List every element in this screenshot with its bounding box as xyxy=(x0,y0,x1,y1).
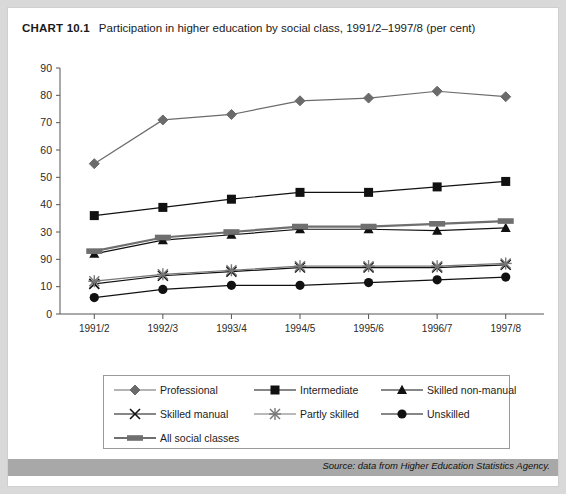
series-line xyxy=(94,181,505,215)
star-marker xyxy=(431,260,443,272)
source-note: Source: data from Higher Education Stati… xyxy=(322,460,550,471)
y-axis-tick-label: 90 xyxy=(40,253,52,265)
circle-marker xyxy=(397,409,406,418)
x-axis-tick-label: 1997/8 xyxy=(490,323,521,334)
diamond-marker xyxy=(158,115,168,125)
y-axis-tick-label: 0 xyxy=(46,308,52,320)
circle-marker xyxy=(501,273,510,282)
legend-item-label: All social classes xyxy=(160,432,239,444)
diamond-marker xyxy=(295,96,305,106)
x-axis-tick-label: 1991/2 xyxy=(79,323,110,334)
circle-marker xyxy=(379,405,425,423)
bar-marker xyxy=(127,435,143,441)
y-axis-tick-label: 30 xyxy=(40,226,52,238)
legend-item-label: Skilled manual xyxy=(160,408,228,420)
diamond-marker xyxy=(226,109,236,119)
source-band: Source: data from Higher Education Stati… xyxy=(8,459,558,476)
chart-card: CHART 10.1Participation in higher educat… xyxy=(8,8,558,486)
legend-item-label: Professional xyxy=(160,384,218,396)
star-marker xyxy=(500,257,512,269)
y-axis-tick-label: 60 xyxy=(40,144,52,156)
bar-marker xyxy=(361,224,377,230)
triangle-marker xyxy=(501,223,511,232)
bar-marker xyxy=(112,429,158,447)
chart-title-row: CHART 10.1Participation in higher educat… xyxy=(22,22,548,34)
legend-item[interactable]: Intermediate xyxy=(252,378,358,402)
x-axis-tick-label: 1995/6 xyxy=(353,323,384,334)
circle-marker xyxy=(227,281,236,290)
cross-marker xyxy=(112,405,158,423)
x-axis-tick-label: 1993/4 xyxy=(216,323,247,334)
page-background: CHART 10.1Participation in higher educat… xyxy=(0,0,566,494)
x-axis-tick-label: 1996/7 xyxy=(422,323,453,334)
circle-marker xyxy=(158,285,167,294)
page-title: Participation in higher education by soc… xyxy=(99,22,476,34)
square-marker xyxy=(252,381,298,399)
x-axis-tick-label: 1992/3 xyxy=(148,323,179,334)
bar-marker xyxy=(498,218,514,224)
y-axis-tick-label: 50 xyxy=(40,171,52,183)
circle-marker xyxy=(433,275,442,284)
diamond-marker xyxy=(364,93,374,103)
star-marker xyxy=(252,405,298,423)
square-marker xyxy=(227,195,236,204)
legend-item-label: Partly skilled xyxy=(300,408,359,420)
diamond-marker xyxy=(432,86,442,96)
diamond-marker xyxy=(501,92,511,102)
y-axis-tick-label: 40 xyxy=(40,198,52,210)
line-chart: 01090304050607080901991/21992/31993/4199… xyxy=(8,44,558,374)
circle-marker xyxy=(364,278,373,287)
chart-legend: ProfessionalIntermediateSkilled non-manu… xyxy=(103,375,510,449)
square-marker xyxy=(501,177,510,186)
square-marker xyxy=(271,386,280,395)
square-marker xyxy=(158,203,167,212)
square-marker xyxy=(90,211,99,220)
legend-item-label: Unskilled xyxy=(427,408,470,420)
star-marker xyxy=(88,275,100,287)
plot-area: 01090304050607080901991/21992/31993/4199… xyxy=(8,44,558,374)
bar-marker xyxy=(155,235,171,241)
triangle-marker xyxy=(379,381,425,399)
star-marker xyxy=(294,260,306,272)
legend-item[interactable]: Skilled non-manual xyxy=(379,378,516,402)
series-professional xyxy=(89,86,510,168)
star-marker xyxy=(157,268,169,280)
square-marker xyxy=(364,188,373,197)
square-marker xyxy=(296,188,305,197)
bar-marker xyxy=(292,224,308,230)
circle-marker xyxy=(90,293,99,302)
diamond-marker xyxy=(112,381,158,399)
y-axis-tick-label: 70 xyxy=(40,116,52,128)
triangle-marker xyxy=(397,385,407,394)
star-marker xyxy=(269,408,281,420)
circle-marker xyxy=(295,281,304,290)
bar-marker xyxy=(86,248,102,254)
star-marker xyxy=(363,260,375,272)
chart-number: CHART 10.1 xyxy=(22,22,90,34)
diamond-marker xyxy=(130,385,140,395)
legend-item-label: Skilled non-manual xyxy=(427,384,516,396)
legend-item[interactable]: Professional xyxy=(112,378,218,402)
series-all-social-classes xyxy=(86,218,513,254)
square-marker xyxy=(433,182,442,191)
diamond-marker xyxy=(89,159,99,169)
y-axis-tick-label: 10 xyxy=(40,280,52,292)
y-axis-tick-label: 80 xyxy=(40,89,52,101)
legend-item-label: Intermediate xyxy=(300,384,358,396)
bar-marker xyxy=(429,221,445,227)
y-axis-tick-label: 90 xyxy=(40,62,52,74)
legend-item[interactable]: Skilled manual xyxy=(112,402,228,426)
legend-item[interactable]: All social classes xyxy=(112,426,239,450)
star-marker xyxy=(225,264,237,276)
x-axis-tick-label: 1994/5 xyxy=(285,323,316,334)
legend-item[interactable]: Unskilled xyxy=(379,402,470,426)
bar-marker xyxy=(223,229,239,235)
series-intermediate xyxy=(90,177,510,220)
legend-item[interactable]: Partly skilled xyxy=(252,402,359,426)
